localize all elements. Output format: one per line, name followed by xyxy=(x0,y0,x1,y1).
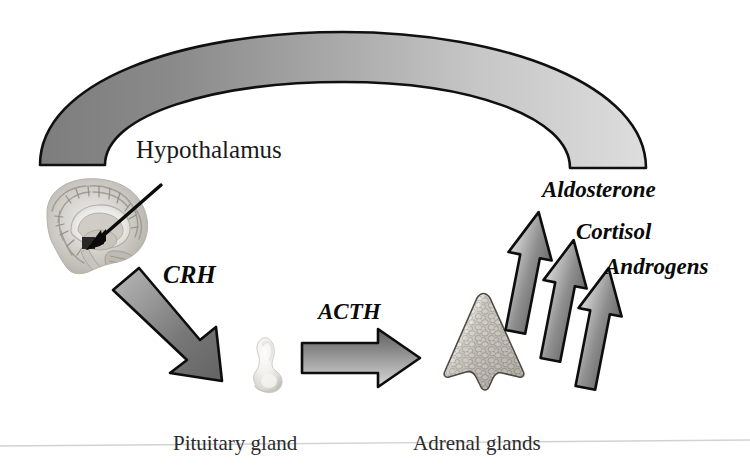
acth-arrow xyxy=(302,329,420,387)
brain-sagittal-image xyxy=(47,179,148,277)
label-acth: ACTH xyxy=(318,300,381,323)
label-androgens: Androgens xyxy=(605,255,709,278)
footer-rule xyxy=(0,440,750,446)
label-pituitary-gland: Pituitary gland xyxy=(173,433,297,454)
label-crh: CRH xyxy=(163,262,216,287)
label-cortisol: Cortisol xyxy=(576,220,651,243)
feedback-arc xyxy=(40,32,646,168)
hpa-axis-figure: Hypothalamus CRH ACTH Aldosterone Cortis… xyxy=(0,0,750,474)
label-hypothalamus: Hypothalamus xyxy=(136,137,282,162)
label-adrenal-glands: Adrenal glands xyxy=(413,433,541,454)
pituitary-gland-image xyxy=(254,338,282,393)
label-aldosterone: Aldosterone xyxy=(542,178,656,201)
